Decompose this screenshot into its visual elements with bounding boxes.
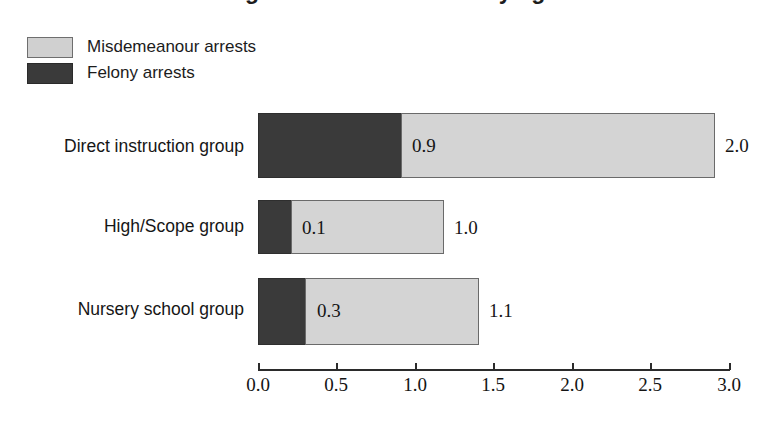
category-label-direct-instruction: Direct instruction group <box>64 136 244 157</box>
bar-segment-felony-nursery-school <box>258 278 306 345</box>
x-axis-tick-4 <box>572 363 574 370</box>
bar-segment-felony-direct-instruction <box>258 113 402 178</box>
x-axis-tick-label-4: 2.0 <box>552 374 592 396</box>
x-axis-tick-1 <box>336 363 338 370</box>
x-axis-tick-label-5: 2.5 <box>630 374 670 396</box>
bar-end-value-high-scope: 1.0 <box>454 217 478 239</box>
x-axis-tick-label-0: 0.0 <box>238 374 278 396</box>
bar-end-value-direct-instruction: 2.0 <box>725 135 749 157</box>
x-axis-tick-3 <box>493 363 495 370</box>
x-axis-tick-label-3: 1.5 <box>473 374 513 396</box>
bar-segment-misdemeanour-direct-instruction <box>401 113 715 178</box>
x-axis-tick-0 <box>258 363 260 370</box>
bar-inner-value-nursery-school: 0.3 <box>317 300 341 322</box>
bar-inner-value-direct-instruction: 0.9 <box>412 135 436 157</box>
chart-page: Average number of arrests by age 40 Misd… <box>0 0 772 424</box>
bar-end-value-nursery-school: 1.1 <box>489 300 513 322</box>
x-axis-tick-2 <box>415 363 417 370</box>
category-label-nursery-school: Nursery school group <box>78 299 244 320</box>
x-axis-tick-label-2: 1.0 <box>395 374 435 396</box>
category-label-high-scope: High/Scope group <box>104 216 244 237</box>
x-axis-tick-label-6: 3.0 <box>709 374 749 396</box>
plot-area: Direct instruction group 0.9 2.0 High/Sc… <box>0 0 772 424</box>
x-axis-tick-label-1: 0.5 <box>316 374 356 396</box>
bar-inner-value-high-scope: 0.1 <box>302 217 326 239</box>
bar-segment-felony-high-scope <box>258 200 292 254</box>
x-axis-tick-6 <box>729 363 731 370</box>
x-axis-tick-5 <box>650 363 652 370</box>
